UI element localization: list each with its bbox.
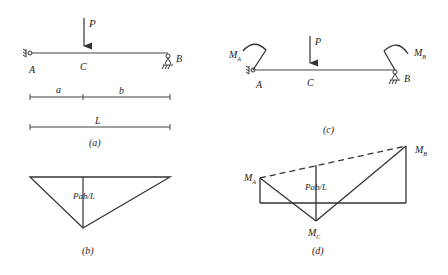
point-c-label: C [80, 61, 87, 72]
caption-c: (c) [323, 124, 335, 136]
panel-d [260, 146, 406, 221]
moment-right-label: MB [414, 144, 427, 157]
beam-diagrams: P A C B a b L (a) Pab/L (b) [0, 0, 448, 275]
moment-mid-label: MC [307, 227, 321, 240]
panel-a: P A C B a b L (a) [23, 17, 182, 149]
moment-value-label: Pab/L [72, 191, 95, 201]
point-a-label: A [255, 79, 263, 90]
moment-diagram [30, 177, 170, 228]
moment-value-label: Pab/L [304, 182, 327, 192]
caption-b: (b) [82, 245, 94, 257]
panel-b: Pab/L (b) [30, 177, 170, 257]
caption-d: (d) [312, 245, 324, 257]
moment-right-label: MB [413, 47, 426, 60]
moment-left-label: MA [243, 172, 256, 185]
load-label: P [88, 17, 96, 29]
caption-a: (a) [89, 137, 101, 149]
point-b-label: B [176, 53, 182, 64]
dim-a-label: a [56, 84, 61, 95]
point-b-label: B [404, 73, 410, 84]
load-label: P [314, 36, 321, 47]
dim-L-label: L [94, 115, 101, 126]
point-c-label: C [307, 77, 314, 88]
roller-support-icon [389, 70, 400, 84]
moment-arc-right-icon [384, 45, 408, 70]
dim-b-label: b [119, 85, 124, 96]
moment-left-label: MA [228, 49, 241, 62]
panel-c: P MA MB A C B (c) [228, 36, 426, 136]
pin-support-icon [23, 49, 32, 57]
point-a-label: A [28, 64, 36, 75]
dimension-ab [30, 94, 170, 100]
roller-support-icon [162, 54, 173, 69]
